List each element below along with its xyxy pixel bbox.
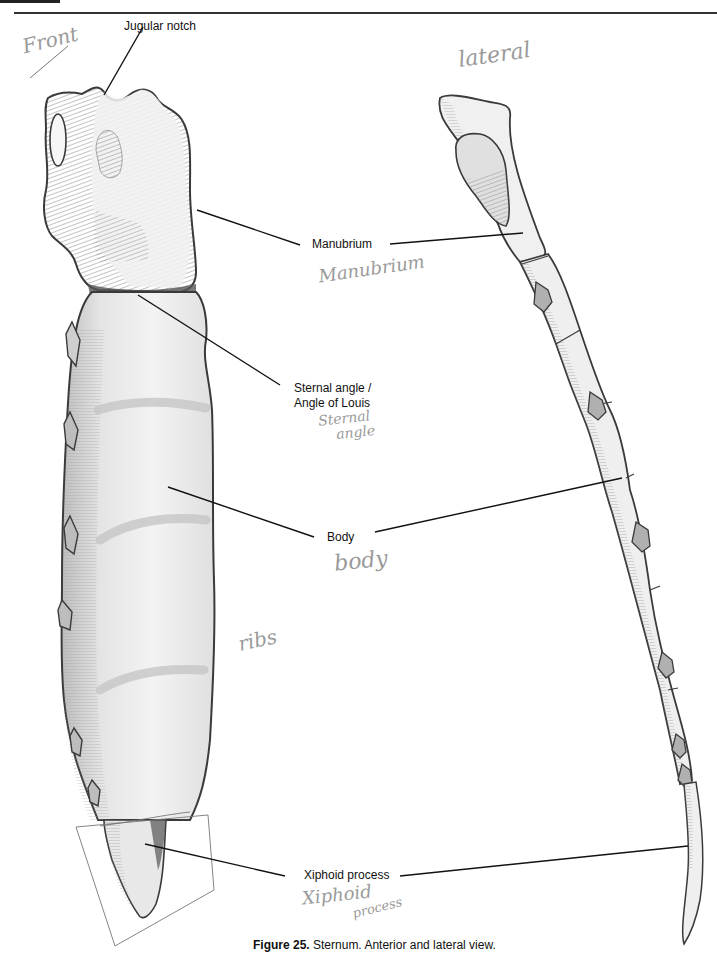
label-sternal-angle-line1: Sternal angle / <box>294 381 371 395</box>
figure-caption-text: Sternum. Anterior and lateral view. <box>310 938 496 952</box>
figure-caption: Figure 25. Sternum. Anterior and lateral… <box>253 938 496 952</box>
sternal-body-anterior <box>58 292 215 820</box>
leader-manubrium-lateral <box>390 233 523 244</box>
lateral-view <box>439 95 703 944</box>
anterior-view <box>30 46 215 946</box>
leader-xiphoid-anterior <box>145 844 285 876</box>
label-xiphoid-process: Xiphoid process <box>304 868 389 882</box>
sternum-illustration <box>0 0 717 978</box>
xiphoid-anterior <box>76 812 214 946</box>
label-manubrium: Manubrium <box>312 237 372 251</box>
leader-body-lateral <box>375 478 622 532</box>
label-jugular-notch: Jugular notch <box>124 19 196 33</box>
label-body: Body <box>327 530 354 544</box>
leader-manubrium-anterior <box>197 210 300 245</box>
figure-number: Figure 25. <box>253 938 310 952</box>
leader-jugular-notch <box>104 27 143 95</box>
manubrium-anterior <box>44 88 196 296</box>
leader-xiphoid-lateral <box>400 846 688 876</box>
